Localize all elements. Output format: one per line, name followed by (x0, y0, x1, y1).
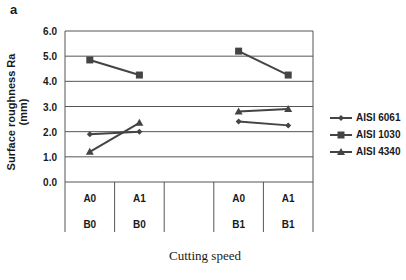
aisi-4340-marker (135, 119, 143, 126)
aisi-4340-line (90, 123, 140, 152)
aisi-1030-marker (235, 48, 242, 55)
category-label-top: A0 (83, 193, 96, 204)
category-label-bottom: B1 (232, 219, 245, 230)
aisi-1030-line (90, 60, 140, 75)
y-tick-label: 6.0 (43, 26, 57, 37)
aisi-4340-line (239, 109, 289, 112)
square-marker-icon (330, 130, 352, 140)
triangle-marker-icon (330, 147, 352, 157)
aisi-1030-marker (86, 56, 93, 63)
aisi-1030-line (239, 51, 289, 75)
aisi-6061-marker (236, 119, 242, 125)
aisi-6061-marker (285, 122, 291, 128)
y-tick-label: 5.0 (43, 51, 57, 62)
legend-item-aisi-6061: AISI 6061 (330, 109, 400, 126)
legend-item-aisi-1030: AISI 1030 (330, 126, 400, 143)
category-label-bottom: B0 (133, 219, 146, 230)
aisi-6061-line (239, 122, 289, 126)
aisi-1030-marker (285, 72, 292, 79)
y-tick-label: 1.0 (43, 152, 57, 163)
category-label-top: A1 (133, 193, 146, 204)
y-tick-label: 3.0 (43, 102, 57, 113)
category-label-bottom: B1 (282, 219, 295, 230)
diamond-marker-icon (330, 113, 352, 123)
category-label-top: A1 (282, 193, 295, 204)
legend-label: AISI 6061 (356, 112, 400, 123)
aisi-1030-marker (136, 72, 143, 79)
aisi-6061-marker (136, 129, 142, 135)
y-tick-label: 2.0 (43, 127, 57, 138)
category-label-top: A0 (232, 193, 245, 204)
legend-label: AISI 4340 (356, 146, 400, 157)
y-tick-label: 0.0 (43, 177, 57, 188)
legend: AISI 6061AISI 1030AISI 4340 (330, 109, 400, 160)
y-tick-label: 4.0 (43, 76, 57, 87)
category-label-bottom: B0 (83, 219, 96, 230)
legend-label: AISI 1030 (356, 129, 400, 140)
x-axis-title: Cutting speed (150, 248, 260, 264)
legend-item-aisi-4340: AISI 4340 (330, 143, 400, 160)
